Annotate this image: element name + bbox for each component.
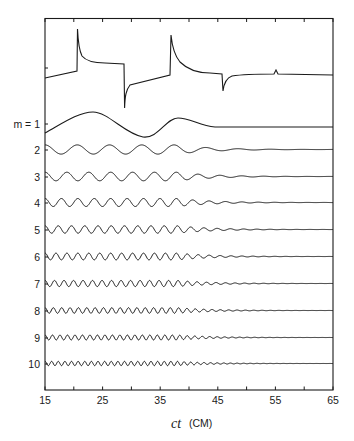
trace-m2 (45, 145, 333, 154)
trace-m9 (45, 335, 333, 340)
trace-m1 (45, 112, 333, 137)
trace-m10 (45, 361, 333, 365)
row-label-m2: 2 (34, 144, 40, 156)
x-tick-15: 15 (39, 394, 51, 406)
row-labels: m = 1 2 3 4 5 6 7 8 9 10 (13, 118, 40, 370)
x-tick-55: 55 (270, 394, 282, 406)
trace-m7 (45, 280, 333, 286)
trace-m5 (45, 226, 333, 233)
trace-m3 (45, 172, 333, 181)
row-label-m9: 9 (34, 332, 40, 344)
x-tick-65: 65 (327, 394, 339, 406)
row-label-m1: m = 1 (13, 118, 40, 130)
traces (45, 29, 333, 366)
trace-m4 (45, 199, 333, 207)
trace-m6 (45, 253, 333, 260)
stacked-waveform-chart: m = 1 2 3 4 5 6 7 8 9 10 15 25 35 45 55 … (0, 0, 354, 441)
x-tick-45: 45 (212, 394, 224, 406)
x-tick-labels: 15 25 35 45 55 65 (39, 394, 339, 406)
trace-m8 (45, 308, 333, 314)
trace-total (45, 29, 333, 108)
row-label-m6: 6 (34, 251, 40, 263)
row-label-m8: 8 (34, 305, 40, 317)
x-axis-variable: ct (171, 416, 182, 431)
row-label-m3: 3 (34, 171, 40, 183)
row-label-m10: 10 (28, 358, 40, 370)
x-axis-label: ct (CM) (171, 416, 212, 431)
row-label-m4: 4 (34, 197, 40, 209)
x-tick-25: 25 (97, 394, 109, 406)
row-label-m5: 5 (34, 224, 40, 236)
x-tick-35: 35 (154, 394, 166, 406)
x-axis-unit: (CM) (189, 417, 212, 429)
row-label-m7: 7 (34, 278, 40, 290)
